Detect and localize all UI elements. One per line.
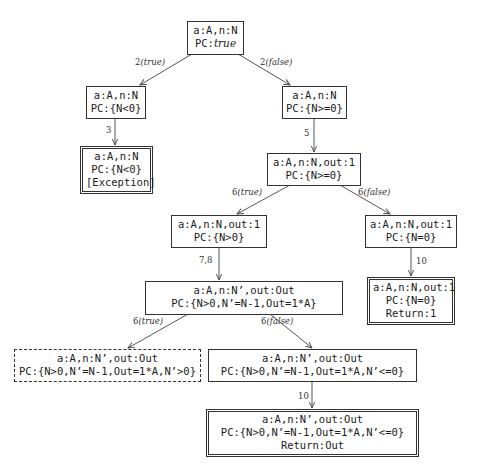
node-pc: PC:{N>0} bbox=[175, 231, 263, 244]
edge-label-num: 10 bbox=[416, 256, 427, 266]
node-exception: a:A,n:N PC:{N<0} [Exception] bbox=[80, 146, 153, 194]
edge-label-cond: (true) bbox=[138, 316, 163, 326]
node-state: a:A,n:N’,out:Out bbox=[149, 284, 339, 297]
edge-label-10-b: 10 bbox=[298, 391, 309, 401]
edge-label-6-true: 6(true) bbox=[232, 187, 262, 197]
node-pc: PC:{N>0,N’=N-1,Out=1*A,N’<=0} bbox=[212, 426, 413, 439]
node-pc: PC:{N<0} bbox=[86, 163, 147, 176]
edge-label-cond: (false) bbox=[266, 316, 293, 326]
edge-label-6-true-b: 6(true) bbox=[133, 316, 163, 326]
node-state: a:A,n:N,out:1 bbox=[373, 281, 449, 294]
node-state: a:A,n:N bbox=[191, 24, 240, 37]
edge-label-cond: (true) bbox=[140, 57, 165, 67]
node-state: a:A,n:N,out:1 bbox=[175, 218, 263, 231]
pc-prefix: PC: bbox=[195, 37, 214, 49]
node-result: Return:Out bbox=[212, 439, 413, 452]
node-pc: PC:{N>=0} bbox=[286, 102, 343, 115]
edge-label-2-false: 2(false) bbox=[260, 57, 292, 67]
node-pc: PC:true bbox=[191, 37, 240, 50]
edge-label-num: 5 bbox=[304, 128, 309, 138]
node-out1-n-gt-0: a:A,n:N,out:1 PC:{N>0} bbox=[171, 215, 267, 248]
node-loop-body: a:A,n:N’,out:Out PC:{N>0,N’=N-1,Out=1*A} bbox=[145, 281, 343, 315]
pc-value: true bbox=[214, 37, 236, 49]
node-state: a:A,n:N bbox=[86, 150, 147, 163]
node-pc: PC:{N=0} bbox=[373, 294, 449, 307]
node-state: a:A,n:N’,out:Out bbox=[212, 413, 413, 426]
node-state: a:A,n:N bbox=[90, 89, 142, 102]
node-pc: PC:{N>0,N’=N-1,Out=1*A} bbox=[149, 297, 339, 310]
edge-label-7-8: 7,8 bbox=[199, 255, 213, 265]
node-loop-exit: a:A,n:N’,out:Out PC:{N>0,N’=N-1,Out=1*A,… bbox=[208, 349, 417, 382]
edge-label-cond: (false) bbox=[265, 57, 292, 67]
edge-label-2-true: 2(true) bbox=[135, 57, 165, 67]
node-state: a:A,n:N’,out:Out bbox=[212, 352, 413, 365]
node-out1-n-eq-0: a:A,n:N,out:1 PC:{N=0} bbox=[365, 215, 457, 248]
node-state: a:A,n:N bbox=[286, 89, 343, 102]
node-pc: PC:{N>0,N’=N-1,Out=1*A,N’<=0} bbox=[212, 365, 413, 378]
edge-label-num: 10 bbox=[298, 391, 309, 401]
node-pc: PC:{N>0,N’=N-1,Out=1*A,N’>0} bbox=[18, 365, 197, 378]
edge-label-5: 5 bbox=[304, 128, 309, 138]
edge-label-10-a: 10 bbox=[416, 256, 427, 266]
node-return-out: a:A,n:N’,out:Out PC:{N>0,N’=N-1,Out=1*A,… bbox=[206, 409, 419, 457]
edge-label-6-false-b: 6(false) bbox=[261, 316, 293, 326]
edge-label-3: 3 bbox=[106, 125, 111, 135]
edge-label-num: 7,8 bbox=[199, 255, 213, 265]
node-result: Return:1 bbox=[373, 307, 449, 320]
node-state: a:A,n:N’,out:Out bbox=[18, 352, 197, 365]
edge-label-cond: (true) bbox=[237, 187, 262, 197]
node-loop-continue: a:A,n:N’,out:Out PC:{N>0,N’=N-1,Out=1*A,… bbox=[14, 349, 201, 382]
node-out1-n-ge-0: a:A,n:N,out:1 PC:{N>=0} bbox=[267, 153, 361, 186]
node-state: a:A,n:N,out:1 bbox=[369, 218, 453, 231]
edge-label-6-false: 6(false) bbox=[358, 187, 390, 197]
node-n-lt-0: a:A,n:N PC:{N<0} bbox=[86, 86, 146, 119]
node-result: [Exception] bbox=[86, 176, 147, 189]
node-root: a:A,n:N PC:true bbox=[187, 21, 244, 55]
node-state: a:A,n:N,out:1 bbox=[271, 156, 357, 169]
edge-label-cond: (false) bbox=[363, 187, 390, 197]
edge-label-num: 3 bbox=[106, 125, 111, 135]
node-n-ge-0: a:A,n:N PC:{N>=0} bbox=[282, 86, 347, 119]
node-return-1: a:A,n:N,out:1 PC:{N=0} Return:1 bbox=[367, 277, 455, 325]
node-pc: PC:{N=0} bbox=[369, 231, 453, 244]
node-pc: PC:{N<0} bbox=[90, 102, 142, 115]
node-pc: PC:{N>=0} bbox=[271, 169, 357, 182]
